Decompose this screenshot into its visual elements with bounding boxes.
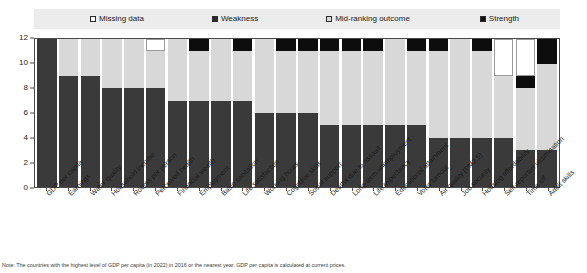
x-axis-label-cell: Rooms per person bbox=[122, 191, 144, 253]
bar-segment-mid bbox=[276, 51, 296, 113]
bar-segment-mid bbox=[450, 39, 470, 138]
bar-segment-mid bbox=[233, 51, 253, 100]
bar-segment-weakness bbox=[37, 39, 57, 187]
bar-segment-mid bbox=[407, 51, 427, 125]
y-axis-tick-label: 12 bbox=[19, 34, 28, 42]
missing-data-swatch bbox=[90, 16, 96, 22]
chart-caption: Note: The countries with the highest lev… bbox=[2, 262, 585, 269]
legend-label-strength: Strength bbox=[489, 15, 519, 23]
mid-ranking-outcome-swatch bbox=[326, 16, 332, 22]
bar-segment-strength bbox=[320, 39, 340, 51]
x-axis-label-cell: Financial wealth bbox=[166, 191, 188, 253]
legend-item-mid-ranking-outcome: Mid-ranking outcome bbox=[326, 15, 410, 23]
bar-segment-mid bbox=[320, 51, 340, 125]
y-axis-tick-label: 10 bbox=[19, 59, 28, 67]
bar-segment-mid bbox=[81, 39, 101, 76]
y-axis-tick-label: 4 bbox=[24, 134, 28, 142]
legend-label-mid-ranking-outcome: Mid-ranking outcome bbox=[335, 15, 410, 23]
x-axis-labels: GDP per capitaEarningsWater qualityHouse… bbox=[34, 191, 560, 253]
y-axis-tick-label: 6 bbox=[24, 109, 28, 117]
bar-segment-weakness bbox=[81, 76, 101, 187]
x-axis-label-cell: Earnings bbox=[57, 191, 79, 253]
x-axis-label-cell: Life satisfaction bbox=[231, 191, 253, 253]
bar-segment-strength bbox=[342, 39, 362, 51]
y-axis-tick-label: 2 bbox=[24, 159, 28, 167]
bar-column[interactable] bbox=[80, 39, 102, 187]
bar-segment-strength bbox=[516, 76, 536, 88]
bar-segment-mid bbox=[472, 51, 492, 137]
bar-segment-strength bbox=[407, 39, 427, 51]
bar-segment-strength bbox=[233, 39, 253, 51]
y-axis-tick-label: 8 bbox=[24, 84, 28, 92]
x-axis-label-cell: Water quality bbox=[79, 191, 101, 253]
y-axis-tick-label: 0 bbox=[24, 184, 28, 192]
x-axis-label-cell: Cognitive skills bbox=[275, 191, 297, 253]
bar-segment-mid bbox=[124, 39, 144, 88]
bar-segment-mid bbox=[516, 88, 536, 150]
x-axis-label-cell: Employment bbox=[188, 191, 210, 253]
bar-segment-mid bbox=[189, 51, 209, 100]
y-axis: 024681012 bbox=[0, 38, 34, 188]
bar-segment-mid bbox=[146, 51, 166, 88]
x-axis-label-cell: Perceived health bbox=[144, 191, 166, 253]
bar-segment-mid bbox=[385, 39, 405, 125]
x-axis-label-cell: Deaths due to assault bbox=[319, 191, 341, 253]
x-axis-label-cell: GDP per capita bbox=[35, 191, 57, 253]
bar-segment-mid bbox=[342, 51, 362, 125]
bar-segment-mid bbox=[168, 39, 188, 101]
legend-label-weakness: Weakness bbox=[221, 15, 258, 23]
bar-segment-mid bbox=[59, 39, 79, 76]
x-axis-label-cell: Self-reported victimisation bbox=[493, 191, 515, 253]
bar-segment-mid bbox=[537, 64, 557, 150]
bar-segment-mid bbox=[211, 39, 231, 101]
bar-segment-missing bbox=[146, 39, 166, 51]
x-axis-label-cell: Housing affordability bbox=[472, 191, 494, 253]
bar-segment-mid bbox=[298, 51, 318, 113]
x-axis-label-cell: Voter turnout bbox=[406, 191, 428, 253]
legend-item-missing-data: Missing data bbox=[90, 15, 144, 23]
x-axis-label-cell: Household income bbox=[100, 191, 122, 253]
x-axis-label-cell: Educational attainment bbox=[384, 191, 406, 253]
x-axis-label-cell: Adult skills bbox=[537, 191, 559, 253]
bar-segment-mid bbox=[102, 39, 122, 88]
bar-segment-mid bbox=[363, 51, 383, 125]
bar-segment-mid bbox=[429, 51, 449, 137]
x-axis-label-cell: Time off bbox=[515, 191, 537, 253]
bar-column[interactable] bbox=[36, 39, 58, 187]
x-axis-label-cell: Social support bbox=[297, 191, 319, 253]
legend-label-missing-data: Missing data bbox=[99, 15, 144, 23]
bar-segment-missing bbox=[516, 39, 536, 76]
bar-segment-mid bbox=[255, 39, 275, 113]
x-axis-label-cell: Air quality (PM2.5) bbox=[428, 191, 450, 253]
bar-segment-strength bbox=[298, 39, 318, 51]
x-axis-label-cell: Job security bbox=[450, 191, 472, 253]
bar-segment-mid bbox=[494, 76, 514, 138]
x-axis-label-cell: Life expectancy bbox=[362, 191, 384, 253]
bar-segment-missing bbox=[494, 39, 514, 76]
strength-swatch bbox=[480, 16, 486, 22]
bar-segment-strength bbox=[189, 39, 209, 51]
chart-legend: Missing data Weakness Mid-ranking outcom… bbox=[34, 9, 560, 29]
x-axis-label-cell: Long-term unemployment bbox=[341, 191, 363, 253]
legend-item-weakness: Weakness bbox=[212, 15, 258, 23]
bar-segment-strength bbox=[537, 39, 557, 64]
bar-segment-strength bbox=[472, 39, 492, 51]
bar-segment-strength bbox=[276, 39, 296, 51]
weakness-swatch bbox=[212, 16, 218, 22]
legend-item-strength: Strength bbox=[480, 15, 519, 23]
x-axis-label-cell: Basic sanitation bbox=[210, 191, 232, 253]
bar-segment-strength bbox=[363, 39, 383, 51]
x-axis-label-cell: Working hours bbox=[253, 191, 275, 253]
bar-column[interactable] bbox=[210, 39, 232, 187]
bar-segment-strength bbox=[429, 39, 449, 51]
